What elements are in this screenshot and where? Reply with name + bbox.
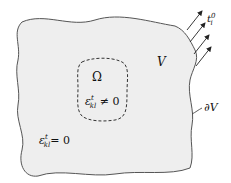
boundary-label: ∂V — [204, 101, 218, 114]
region-label-V: V — [157, 55, 166, 69]
boundary-leader — [192, 108, 202, 114]
diagram-canvas — [0, 0, 231, 183]
inside-strain-label: εtkl ≠ 0 — [85, 94, 119, 110]
traction-label: t0i — [207, 12, 213, 27]
outside-strain-label: εtkl= 0 — [39, 133, 70, 149]
inclusion-label-omega: Ω — [92, 70, 102, 84]
